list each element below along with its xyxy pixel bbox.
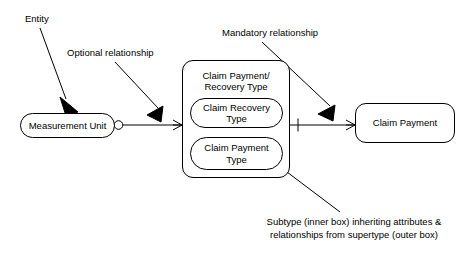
entity-subtype-claim-recovery-type[interactable]: Claim Recovery Type <box>190 98 283 128</box>
supertype-title: Claim Payment/ Recovery Type <box>183 70 289 92</box>
crows-foot-marker-supertype <box>173 120 182 130</box>
leader-line-optional <box>115 62 158 108</box>
leader-arrowhead-mandatory <box>318 105 335 121</box>
leader-line-subtype <box>287 172 340 212</box>
annotation-entity: Entity <box>25 13 49 26</box>
entity-measurement-unit[interactable]: Measurement Unit <box>20 113 115 138</box>
entity-claim-payment[interactable]: Claim Payment <box>355 103 455 143</box>
annotation-optional-relationship: Optional relationship <box>67 47 154 60</box>
leader-arrowhead-optional <box>147 106 163 122</box>
leader-line-entity <box>40 28 66 99</box>
leader-entity <box>40 28 78 116</box>
entity-subtype-claim-payment-type[interactable]: Claim Payment Type <box>190 137 283 170</box>
er-diagram-canvas: Measurement Unit Claim Payment/ Recovery… <box>0 0 469 258</box>
annotation-subtype-caption: Subtype (inner box) inheriting attribute… <box>247 216 461 241</box>
relationship-supertype-to-claim-payment <box>290 119 355 132</box>
annotation-mandatory-relationship: Mandatory relationship <box>222 27 318 40</box>
optional-circle-marker <box>114 121 123 130</box>
crows-foot-marker-claim-payment <box>346 120 355 130</box>
leader-optional-relationship <box>115 62 163 122</box>
relationship-measurement-unit-to-supertype <box>114 120 182 130</box>
